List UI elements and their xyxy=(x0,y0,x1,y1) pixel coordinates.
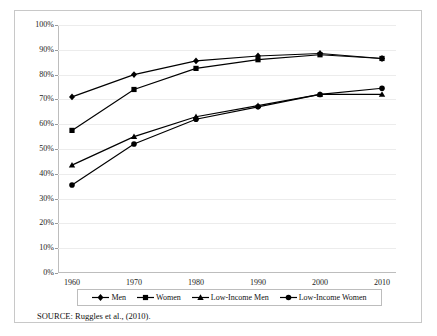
square-marker xyxy=(379,56,384,61)
circle-marker xyxy=(69,182,75,188)
legend-item-women[interactable]: Women xyxy=(137,293,181,302)
x-axis-tick-label: 1960 xyxy=(64,279,80,287)
legend-item-low-income-women[interactable]: Low-Income Women xyxy=(280,293,367,302)
chart-legend: MenWomenLow-Income MenLow-Income Women xyxy=(77,289,382,306)
square-marker xyxy=(131,87,136,92)
legend-label: Low-Income Men xyxy=(211,294,269,302)
y-axis-tick-label: 100% xyxy=(35,21,54,29)
square-marker xyxy=(143,295,148,300)
circle-marker xyxy=(255,104,261,110)
x-axis-tick-label: 1970 xyxy=(126,279,142,287)
legend-label: Men xyxy=(111,294,126,302)
circle-marker xyxy=(193,116,199,122)
y-axis-tick-mark xyxy=(55,273,58,274)
circle-marker xyxy=(379,85,385,91)
legend-circle-marker xyxy=(280,293,297,302)
plot-area: 0%10%20%30%40%50%60%70%80%90%100% 196019… xyxy=(58,25,396,273)
figure-container: 0%10%20%30%40%50%60%70%80%90%100% 196019… xyxy=(14,10,422,323)
diamond-marker xyxy=(131,71,137,78)
legend-square-marker xyxy=(137,293,154,302)
x-axis-tick-label: 2010 xyxy=(374,279,390,287)
square-marker xyxy=(317,52,322,57)
legend-label: Low-Income Women xyxy=(299,294,367,302)
y-axis-tick-label: 30% xyxy=(39,195,54,203)
circle-marker xyxy=(317,92,323,98)
source-note: SOURCE: Ruggles et al., (2010). xyxy=(37,312,151,321)
legend-label: Women xyxy=(156,294,181,302)
legend-item-men[interactable]: Men xyxy=(92,293,126,302)
legend-diamond-marker xyxy=(92,293,109,302)
x-axis-tick-label: 1990 xyxy=(250,279,266,287)
x-axis-tick-label: 2000 xyxy=(312,279,328,287)
y-axis-tick-label: 80% xyxy=(39,71,54,79)
circle-marker xyxy=(131,141,137,147)
legend-item-low-income-men[interactable]: Low-Income Men xyxy=(192,293,269,302)
y-axis-tick-label: 0% xyxy=(43,269,54,277)
square-marker xyxy=(193,66,198,71)
series-line xyxy=(72,88,382,185)
y-axis-tick-label: 70% xyxy=(39,95,54,103)
square-marker xyxy=(69,128,74,133)
y-axis-tick-label: 40% xyxy=(39,170,54,178)
y-axis-tick-label: 60% xyxy=(39,120,54,128)
circle-marker xyxy=(285,295,291,301)
y-axis-tick-label: 10% xyxy=(39,244,54,252)
diamond-marker xyxy=(193,58,199,65)
y-axis-tick-label: 90% xyxy=(39,46,54,54)
line-chart: 0%10%20%30%40%50%60%70%80%90%100% 196019… xyxy=(15,11,423,324)
series-line xyxy=(72,54,382,97)
series-lines xyxy=(58,25,396,273)
diamond-marker xyxy=(69,94,75,101)
legend-triangle-marker xyxy=(192,293,209,302)
x-axis-tick-label: 1980 xyxy=(188,279,204,287)
y-axis-tick-label: 50% xyxy=(39,145,54,153)
y-axis-tick-label: 20% xyxy=(39,219,54,227)
square-marker xyxy=(255,57,260,62)
diamond-marker xyxy=(98,294,104,301)
